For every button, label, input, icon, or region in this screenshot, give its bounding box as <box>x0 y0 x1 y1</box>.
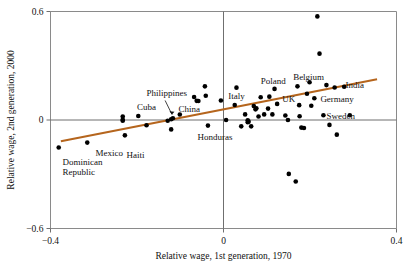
data-point <box>272 87 277 92</box>
annotation-label: Republic <box>63 167 96 177</box>
annotation-label: Mexico <box>95 148 123 158</box>
annotation-label: India <box>345 80 364 90</box>
data-point <box>123 133 128 138</box>
data-point <box>332 85 337 90</box>
annotation-label: Germany <box>320 94 354 104</box>
data-point <box>297 114 302 119</box>
data-point <box>270 112 275 117</box>
annotation-label: Haiti <box>127 150 145 160</box>
data-point <box>249 124 254 129</box>
data-point <box>144 123 149 128</box>
data-point <box>85 140 90 145</box>
data-point <box>267 94 272 99</box>
data-point <box>234 85 239 90</box>
chart-canvas: 0.60−0.6−0.400.4Relative wage, 1st gener… <box>0 0 413 266</box>
data-point <box>206 123 211 128</box>
data-point <box>136 114 141 119</box>
data-point <box>266 106 271 111</box>
data-point <box>56 145 61 150</box>
annotation-label: Dominican <box>63 157 103 167</box>
x-tick-label: 0 <box>221 236 226 246</box>
data-point <box>196 99 201 104</box>
data-point <box>254 106 259 111</box>
annotation-label: Italy <box>228 91 245 101</box>
data-point <box>120 117 125 122</box>
data-point <box>324 83 329 88</box>
y-tick-label: −0.6 <box>26 224 43 234</box>
data-point <box>312 96 317 101</box>
data-point <box>169 127 174 132</box>
annotation-label: Cuba <box>137 102 156 112</box>
data-point <box>192 95 197 100</box>
data-point <box>243 112 248 117</box>
y-axis-title: Relative wage, 2nd generation, 2000 <box>6 50 16 190</box>
data-point <box>256 114 261 119</box>
data-point <box>287 172 292 177</box>
annotation-label: UK <box>282 94 295 104</box>
data-point <box>203 93 208 98</box>
data-point <box>262 112 267 117</box>
y-tick-label: 0 <box>39 115 44 125</box>
data-point <box>297 103 302 108</box>
annotation-label: Sweden <box>326 111 355 121</box>
data-point <box>302 126 307 131</box>
x-tick-label: 0.4 <box>391 236 403 246</box>
data-point <box>203 84 208 89</box>
data-point <box>239 124 244 129</box>
y-tick-label: 0.6 <box>32 7 44 17</box>
data-point <box>327 123 332 128</box>
data-point <box>321 113 326 118</box>
x-tick-label: −0.4 <box>42 236 59 246</box>
philippines-leader-arrowhead <box>169 111 174 114</box>
annotation-label: Poland <box>261 76 287 86</box>
data-point <box>293 179 298 184</box>
data-point <box>283 113 288 118</box>
x-axis-title: Relative wage, 1st generation, 1970 <box>155 251 291 261</box>
annotation-label: Philippines <box>147 88 188 98</box>
data-point <box>219 98 224 103</box>
annotation-label: Belgium <box>293 72 324 82</box>
data-point <box>309 103 314 108</box>
data-point <box>246 119 251 124</box>
annotation-label: China <box>179 104 201 114</box>
data-point <box>335 132 340 137</box>
scatter-plot-figure: 0.60−0.6−0.400.4Relative wage, 1st gener… <box>0 0 413 266</box>
data-point <box>317 51 322 56</box>
data-point <box>224 118 229 123</box>
data-point <box>295 84 300 89</box>
data-point <box>232 103 237 108</box>
data-point <box>258 95 263 100</box>
data-point <box>286 118 291 123</box>
data-point <box>275 102 280 107</box>
data-point <box>305 91 310 96</box>
annotation-label: Honduras <box>198 132 233 142</box>
data-point <box>315 14 320 19</box>
data-point <box>171 116 176 121</box>
